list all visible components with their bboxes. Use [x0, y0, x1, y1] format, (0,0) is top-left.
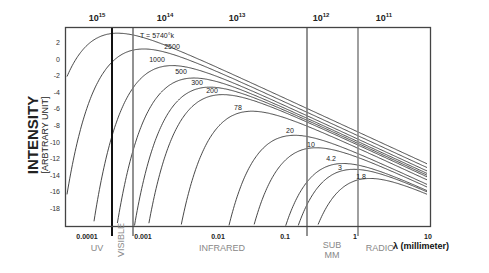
y-axis-title-main: INTENSITY: [25, 55, 40, 215]
curve-label: 20: [286, 127, 294, 134]
frequency-tick: 1014: [157, 12, 174, 23]
curve-1000k: [94, 66, 427, 222]
band-label-uv: UV: [91, 243, 104, 253]
plot-frame: [66, 28, 431, 227]
curve-label: 3: [338, 164, 342, 171]
x-tick-label: 10: [424, 233, 432, 240]
curve-label: 4.2: [326, 155, 336, 162]
curve-label: 500: [175, 68, 187, 75]
frequency-tick: 1013: [229, 12, 246, 23]
curve-label: 10: [307, 141, 315, 148]
curve-label: 78: [234, 104, 242, 111]
band-label-mm: MM: [325, 250, 340, 260]
curve-label: T = 5740°k: [140, 32, 174, 39]
curve-label: 1.8: [356, 173, 366, 180]
curve-200k: [149, 95, 427, 224]
band-label-visible: VISIBLE: [116, 223, 126, 257]
band-label-sub: SUB: [323, 240, 342, 250]
x-tick-label: 0.01: [211, 233, 225, 240]
y-tick-label: 2: [40, 39, 60, 46]
curve-label: 2500: [164, 43, 180, 50]
frequency-tick: 1012: [313, 12, 330, 23]
curve-label: 1000: [149, 56, 165, 63]
frequency-tick: 1015: [89, 12, 106, 23]
blackbody-curves: [67, 33, 427, 226]
x-tick-label: 0.0001: [76, 233, 97, 240]
band-label-infrared: INFRARED: [199, 243, 245, 253]
x-axis-title: λ (millimeter): [393, 241, 449, 251]
band-label-radio: RADIO: [366, 243, 395, 253]
curve-label: 300: [191, 79, 203, 86]
curve-labels: T = 5740°k250010005003002007820104.231.8: [140, 32, 366, 180]
curve-label: 200: [206, 87, 218, 94]
y-axis-title: INTENSITY [ARBTRARY UNIT]: [25, 55, 51, 215]
chart-canvas: T = 5740°k250010005003002007820104.231.8…: [0, 0, 489, 273]
x-tick-label: 0.001: [134, 233, 152, 240]
x-tick-label: 1: [353, 233, 357, 240]
y-axis-title-sub: [ARBTRARY UNIT]: [40, 55, 51, 215]
frequency-tick: 1011: [376, 12, 392, 23]
x-tick-label: 0.1: [280, 233, 290, 240]
